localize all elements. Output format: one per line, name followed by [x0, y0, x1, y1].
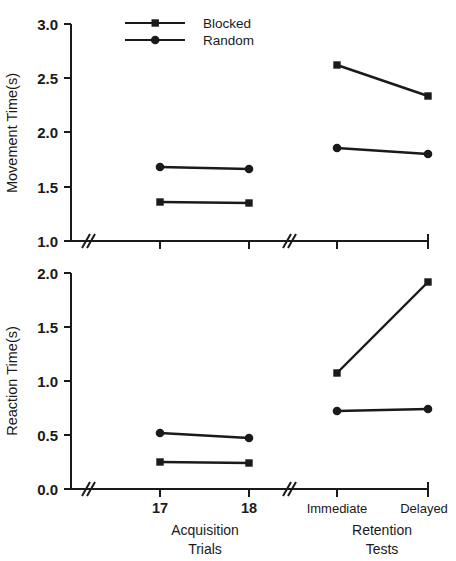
data-point-blocked-17 — [156, 198, 163, 205]
top-y-axis-title: Movement Time(s) — [4, 73, 20, 193]
data-point-blocked-delayed — [424, 278, 431, 285]
data-point-blocked-immediate — [333, 61, 340, 68]
legend: Blocked Random — [125, 16, 254, 48]
data-point-blocked-17 — [156, 458, 163, 465]
xtick-label-delayed: Delayed — [400, 501, 448, 516]
top-y-ticks — [64, 24, 71, 241]
figure-container: Movement Time(s) 3.0 2.5 2.0 1.5 1.0 — [0, 0, 456, 561]
group-label-acquisition: Acquisition Trials — [171, 522, 239, 557]
data-point-random-delayed — [424, 405, 433, 414]
data-point-random-immediate — [333, 407, 342, 416]
group-label-retention-line1: Retention — [352, 522, 412, 538]
xtick-label-immediate: Immediate — [307, 501, 368, 516]
group-label-acquisition-line1: Acquisition — [171, 522, 239, 538]
top-ytick-1.5: 1.5 — [37, 179, 58, 196]
xtick-label-18: 18 — [241, 500, 257, 516]
bottom-ytick-0.5: 0.5 — [37, 427, 58, 444]
bottom-ytick-0.0: 0.0 — [37, 481, 58, 498]
top-series-random — [156, 144, 433, 174]
top-ytick-1.0: 1.0 — [37, 233, 58, 250]
data-point-blocked-immediate — [333, 369, 340, 376]
data-point-random-18 — [245, 165, 254, 174]
two-panel-line-chart: Movement Time(s) 3.0 2.5 2.0 1.5 1.0 — [0, 0, 456, 561]
group-label-retention-line2: Tests — [366, 541, 399, 557]
top-ytick-3.0: 3.0 — [37, 16, 58, 33]
bottom-y-ticks — [64, 273, 71, 489]
top-ytick-2.0: 2.0 — [37, 124, 58, 141]
data-point-blocked-18 — [245, 459, 252, 466]
data-point-random-17 — [156, 429, 165, 438]
top-series-blocked — [156, 61, 431, 206]
bottom-series-random — [156, 405, 433, 443]
data-point-random-immediate — [333, 144, 342, 153]
data-point-random-17 — [156, 163, 165, 172]
group-label-acquisition-line2: Trials — [188, 541, 222, 557]
bottom-ytick-1.0: 1.0 — [37, 373, 58, 390]
top-ytick-2.5: 2.5 — [37, 70, 58, 87]
bottom-panel: Reaction Time(s) 2.0 1.5 1.0 0.5 0.0 — [4, 265, 448, 557]
legend-marker-circle — [151, 36, 160, 45]
bottom-series-blocked — [156, 278, 431, 466]
legend-label-random: Random — [203, 33, 254, 48]
data-point-blocked-18 — [245, 199, 252, 206]
xtick-label-17: 17 — [152, 500, 168, 516]
legend-entry-random: Random — [125, 33, 254, 48]
legend-entry-blocked: Blocked — [125, 16, 251, 31]
bottom-x-ticks — [160, 489, 428, 497]
bottom-ytick-2.0: 2.0 — [37, 265, 58, 282]
bottom-y-axis-title: Reaction Time(s) — [4, 326, 20, 436]
legend-marker-square — [152, 19, 159, 26]
top-panel: Movement Time(s) 3.0 2.5 2.0 1.5 1.0 — [4, 16, 432, 250]
data-point-blocked-delayed — [424, 92, 431, 99]
legend-label-blocked: Blocked — [203, 16, 251, 31]
data-point-random-18 — [245, 434, 254, 443]
group-label-retention: Retention Tests — [352, 522, 412, 557]
top-x-ticks — [160, 241, 428, 249]
bottom-ytick-1.5: 1.5 — [37, 319, 58, 336]
data-point-random-delayed — [424, 150, 433, 159]
